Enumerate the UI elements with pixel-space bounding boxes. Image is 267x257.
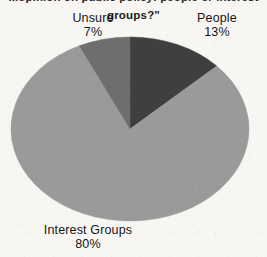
pie-label-people: People 13%: [176, 11, 258, 39]
pie-chart: [10, 36, 250, 222]
pie-label-unsure-percent: 7%: [52, 25, 134, 39]
pie-label-people-name: People: [176, 11, 258, 25]
chart-title-clipped-line: ...opinion on public policy: people or i…: [0, 0, 267, 9]
pie-chart-svg: [10, 36, 250, 222]
pie-label-unsure-name: Unsure: [52, 11, 134, 25]
pie-label-interest-groups-name: Interest Groups: [22, 223, 154, 237]
pie-label-interest-groups-percent: 80%: [22, 237, 154, 251]
pie-label-people-percent: 13%: [176, 25, 258, 39]
chart-title-clipped-text: ...opinion on public policy: people or i…: [0, 0, 267, 3]
pie-slice-group: [11, 37, 249, 221]
pie-label-interest-groups: Interest Groups 80%: [22, 223, 154, 251]
pie-label-unsure: Unsure 7%: [52, 11, 134, 39]
